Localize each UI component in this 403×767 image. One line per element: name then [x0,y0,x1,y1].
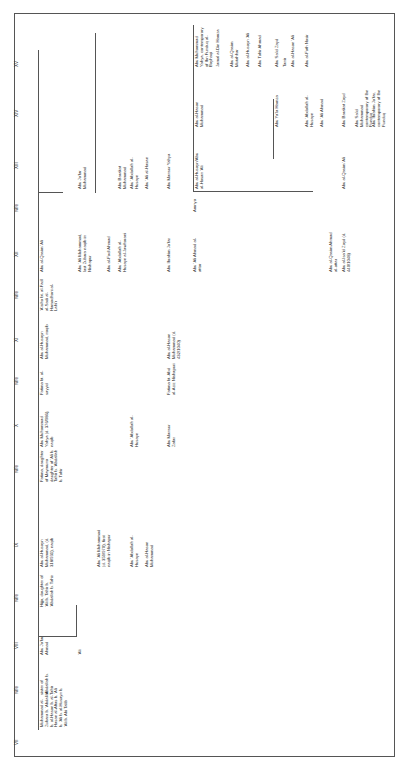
node-ix-abdallah: Abu 'Abdallah al-Husayn [130,527,140,567]
header-wife: wife [14,204,19,212]
node-xv-jamal: Jamal al-Din Hamza [216,23,221,67]
node-xii-qasim: Abu al-Qasim Ahmad al-attar [329,232,339,272]
node-x-wife2: Fatima bt. Abd al-Aziz Nishapuri [167,363,177,395]
header-xii: XII [14,251,19,257]
node-xiv-ahmad: Abu 'Ali Ahmad [320,87,325,127]
node-xiii-qasim: Abu al-Qasim 'Ali [342,149,347,189]
node-x: Abu Muhammad Yahya (d. 376/986), naqib [40,407,54,447]
node-xi: Abu al-Husayn Muhammad, naqib [40,319,50,359]
header-wife: wife [14,594,19,602]
node-xv-fath: Abu al-Fath Nasir [305,23,310,67]
header-vii: VII [14,739,19,745]
node-xii-ibrahim: Abu Ibrahim Ja'far [167,232,172,272]
node-xi-hasan: Abu al-Hasan Muhammad (d. 432/1040) [167,319,181,359]
header-xi: XI [14,338,19,342]
node-ix-hasan: Abu al-Hasan Muhammad [145,527,155,567]
connector [193,191,313,192]
header-viii: VIII [14,642,19,649]
node-xiv-abdallah: Abu 'Abdallah al-Husayn [305,87,315,127]
header-wife: wife [14,377,19,385]
header-wife: wife [14,465,19,473]
node-xv-qasim: Abu al-Qasim Mutahhar [230,23,240,67]
node-x-wife: Fatima bt. al-sayyid [40,363,50,395]
node-viii-ali: 'Ali [78,635,83,655]
node-xiii-abdallah: Abu 'Abdallah al-Husayn [130,149,140,189]
node-xv-yahya: Abu Muhammad Yahya, contemporary of Ibn … [195,23,214,67]
genealogy-chart: VII wife VIII wife IX wife X wife XI wif… [0,0,403,767]
node-viii-wife: Hijja, daughter of 'Ali b. Tahir b. 'Abd… [40,575,54,607]
header-ix: IX [14,543,19,547]
node-xii-ali: Abu 'Ali Muhammad, last Zubara naqib in … [78,232,92,272]
node-vii-wife: sister of 'Abdallah b. Tahir [40,667,54,695]
node-xii-isa: Abu al-Isa'id Zayd (d. 440/1048) [342,232,352,272]
header-xiv: XIV [14,110,19,117]
header-wife: wife [14,291,19,299]
header-wife: wife [14,686,19,694]
node-xiv-barakat: Abu Barakat Zayd [342,87,347,127]
node-xiii-hasan: Abu 'Ali al-Hasan [145,149,150,189]
node-xii: Abu al-Qasim 'Ali [40,232,45,272]
node-xii-abdallah: Abu 'Abdallah al-Husayn al-Jawharani [118,232,128,272]
node-ix-ali: Abu 'Ali Muhammad (d. 359/970), first na… [97,527,111,567]
node-xi-wife: 'A'isha bt. al-Fadl al-Sadi al-Hamadhani… [40,277,59,311]
node-xii-fadl: Abu al-Fadl Ahmad [107,232,112,272]
header-xiii: XIII [14,162,19,169]
node-viii: Abu Ja'far Ahmad [40,625,50,655]
header-x: X [14,424,19,427]
node-x-mansur: Abu Mansur Zafar [167,417,177,447]
node-xiv-hamza: Abu Ya'la Hamza [275,87,280,127]
node-ix: Abu al-Husayn Muhammad, (d. 318/931), na… [40,527,54,567]
node-xv-tahir: Abu Tahir Ahmad [258,23,263,67]
node-ix-wife: Fatima, daughter of Maymuna daughter of … [40,446,64,482]
connector [76,605,77,637]
node-xiii-mansur: Abu Mansur Yahya [167,149,172,189]
connector [38,192,63,193]
node-xii-wife: Amnya [193,192,198,212]
node-xv-hasan: Abu al-Hasan 'Ali [291,23,296,67]
connector [95,33,96,193]
node-xiii-husayn: Abu al-Husayn/Abu al-Hasan 'Ali [195,149,205,189]
node-xv-tanir: Tanir [283,23,288,67]
node-xiv-ibrahim: Abu Ibrahim Ja'far, contemporary of Ibn … [372,87,386,127]
node-xv-husayn: Abu al-Husayn 'Ali [246,23,251,67]
header-xv: XV [14,61,19,67]
node-xiii-barakat: Abu Barakat Muhammad [118,149,128,189]
node-xv-zayd: Abu Sa'id Zayd [275,23,280,67]
node-x-abdallah: Abu 'Abdallah al-Husayn [130,407,140,447]
node-xiii-jafar: Abu Ja'far Muhammad [78,149,88,189]
node-xii-ahmad: Abu 'Ali Ahmad al-attar [193,232,203,272]
node-xiv-hasan: Abu al-Hasan Muhammad [195,87,205,127]
